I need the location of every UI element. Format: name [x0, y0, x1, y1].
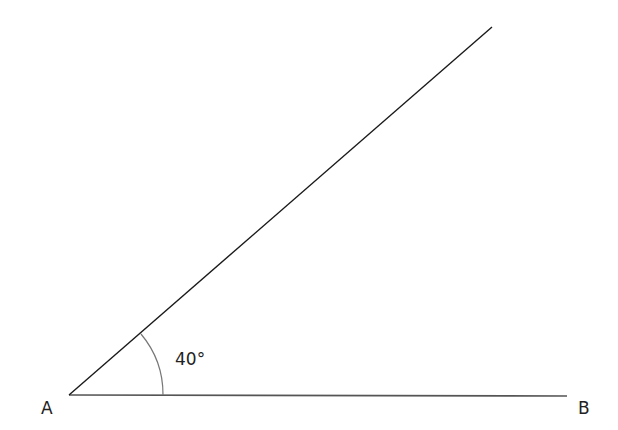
- angle-diagram: A B 40°: [0, 0, 618, 430]
- ray-ab: [69, 395, 567, 396]
- angle-value-label: 40°: [175, 349, 205, 369]
- vertex-label-a: A: [41, 398, 53, 418]
- endpoint-label-b: B: [578, 398, 590, 418]
- angle-arc: [141, 334, 163, 395]
- ray-upper: [69, 27, 492, 395]
